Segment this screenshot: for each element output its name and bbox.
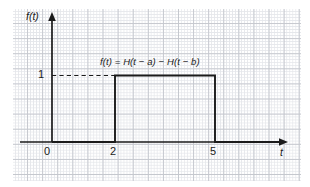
pulse-curve — [52, 76, 280, 143]
function-plot-figure: f(t) t 0 2 5 1 f(t) = H(t − a) − H(t − b… — [0, 0, 310, 187]
y-tick-label-1: 1 — [38, 69, 44, 80]
y-axis-label: f(t) — [26, 11, 39, 22]
plot-vector-layer — [0, 0, 310, 187]
x-tick-label-2: 2 — [110, 146, 116, 157]
x-axis-label: t — [280, 147, 283, 158]
x-tick-label-0: 0 — [44, 146, 50, 157]
equation-annotation: f(t) = H(t − a) − H(t − b) — [100, 57, 200, 67]
x-tick-label-5: 5 — [210, 146, 216, 157]
x-axis-arrowhead — [279, 138, 288, 146]
y-axis-arrowhead — [48, 12, 56, 21]
